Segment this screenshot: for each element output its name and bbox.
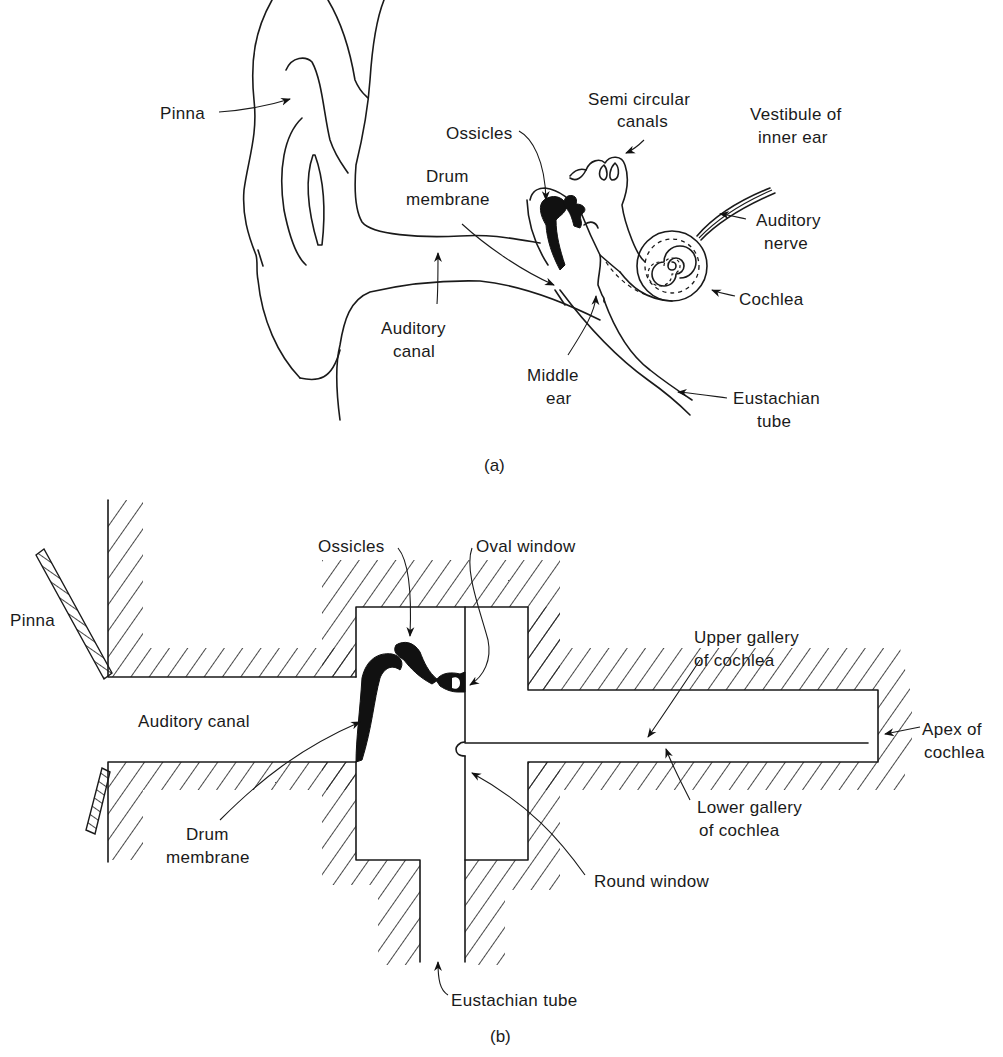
label-a-ossicles: Ossicles <box>446 124 513 143</box>
label-b-upper-gallery-1: Upper gallery <box>694 628 799 647</box>
label-a-auditory-canal-2: canal <box>393 342 435 361</box>
label-a-auditory-nerve-2: nerve <box>764 234 808 253</box>
label-a-auditory-nerve-1: Auditory <box>756 211 821 230</box>
ear-anatomy-diagram: Pinna Ossicles Semi circular canals Vest… <box>0 0 1003 1057</box>
label-a-cochlea: Cochlea <box>739 290 804 309</box>
label-b-lower-gallery-2: of cochlea <box>699 821 780 840</box>
label-b-upper-gallery-2: of cochlea <box>694 651 775 670</box>
label-b-apex-2: cochlea <box>924 743 985 762</box>
label-a-middle-ear-1: Middle <box>527 366 579 385</box>
label-b-drum-2: membrane <box>166 848 250 867</box>
label-a-drum-2: membrane <box>406 190 490 209</box>
caption-b: (b) <box>490 1027 511 1046</box>
label-a-middle-ear-2: ear <box>546 389 572 408</box>
label-a-vestibule-2: inner ear <box>758 128 828 147</box>
label-b-eustachian: Eustachian tube <box>451 991 577 1010</box>
label-b-ossicles: Ossicles <box>318 537 385 556</box>
label-b-oval-window: Oval window <box>476 537 576 556</box>
figure-a-labels: Pinna Ossicles Semi circular canals Vest… <box>160 90 842 475</box>
label-a-semicircular-2: canals <box>617 112 668 131</box>
figure-a-arrows <box>219 99 746 398</box>
label-b-pinna: Pinna <box>10 611 55 630</box>
label-a-drum-1: Drum <box>426 167 469 186</box>
cochlea-spiral <box>606 231 707 301</box>
label-a-eustachian-2: tube <box>757 412 791 431</box>
label-b-drum-1: Drum <box>186 825 229 844</box>
label-b-auditory-canal: Auditory canal <box>138 712 250 731</box>
label-b-round-window: Round window <box>594 872 710 891</box>
figure-a-outer-ear-drawing <box>244 0 775 420</box>
figure-b-schematic <box>36 500 912 965</box>
caption-a: (a) <box>484 456 505 475</box>
label-a-eustachian-1: Eustachian <box>733 389 820 408</box>
label-b-lower-gallery-1: Lower gallery <box>697 798 802 817</box>
label-a-vestibule-1: Vestibule of <box>750 105 842 124</box>
figure-b-labels: Pinna Ossicles Oval window Upper gallery… <box>10 537 985 1046</box>
label-b-apex-1: Apex of <box>922 720 982 739</box>
label-a-semicircular-1: Semi circular <box>588 90 690 109</box>
label-a-pinna: Pinna <box>160 104 205 123</box>
label-a-auditory-canal-1: Auditory <box>381 319 446 338</box>
